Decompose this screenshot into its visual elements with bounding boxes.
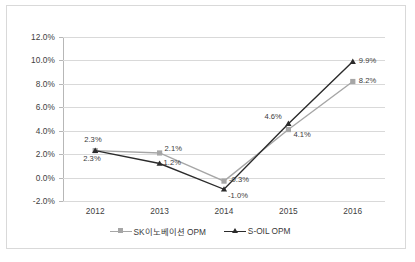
series-layer — [0, 0, 415, 262]
chart-container: 12.0%10.0%8.0%6.0%4.0%2.0%0.0%-2.0% 2012… — [0, 0, 415, 262]
legend-label-sk: SK이노베이션 OPM — [134, 225, 206, 237]
data-point-label: -0.3% — [229, 175, 249, 184]
series-line — [95, 82, 353, 182]
series-line — [95, 62, 353, 190]
series-sk — [93, 79, 356, 184]
data-point-label: 2.3% — [84, 135, 102, 144]
data-point-label: 4.1% — [293, 130, 311, 139]
series-soil — [92, 59, 356, 192]
legend-item-soil[interactable]: S-OIL OPM — [224, 226, 291, 236]
data-point-label: 8.2% — [359, 76, 377, 85]
data-point-marker-square — [157, 150, 162, 155]
data-point-label: 2.1% — [165, 144, 183, 153]
data-point-label: 1.2% — [164, 158, 182, 167]
legend-marker-triangle-icon — [224, 226, 246, 236]
data-point-marker-triangle — [350, 59, 356, 64]
data-point-label: 9.9% — [359, 56, 377, 65]
legend-label-soil: S-OIL OPM — [248, 226, 291, 236]
data-point-marker-square — [350, 79, 355, 84]
data-point-marker-square — [286, 127, 291, 132]
chart-legend: SK이노베이션 OPM S-OIL OPM — [0, 225, 400, 237]
data-point-label: 4.6% — [264, 112, 282, 121]
data-point-label: -1.0% — [228, 191, 248, 200]
legend-marker-square-icon — [110, 226, 132, 236]
legend-item-sk[interactable]: SK이노베이션 OPM — [110, 225, 206, 237]
data-point-marker-square — [221, 178, 226, 183]
data-point-label: 2.3% — [83, 154, 101, 163]
